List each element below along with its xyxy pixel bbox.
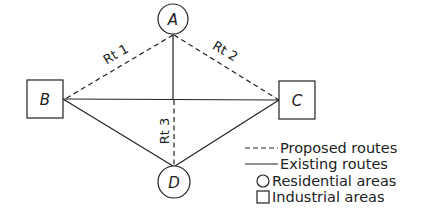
legend-existing-routes: Existing routes xyxy=(280,156,388,172)
node-c-label: C xyxy=(292,92,303,110)
node-b-label: B xyxy=(40,91,50,109)
route-label-rt3: Rt 3 xyxy=(157,118,172,145)
legend-industrial-areas: Industrial areas xyxy=(272,189,385,205)
node-d-label: D xyxy=(168,174,180,192)
route-network-diagram: A B C D Rt 1 Rt 2 Rt 3 Proposed routes E… xyxy=(0,0,437,216)
existing-route-c-d xyxy=(175,100,279,166)
legend: Proposed routes Existing routes Resident… xyxy=(245,140,397,205)
legend-residential-areas: Residential areas xyxy=(272,173,396,189)
legend-proposed-routes: Proposed routes xyxy=(280,140,397,156)
existing-route-b-c xyxy=(63,99,279,100)
route-label-rt2: Rt 2 xyxy=(210,38,240,65)
node-a-label: A xyxy=(167,11,178,29)
legend-square-icon xyxy=(257,191,269,203)
legend-circle-icon xyxy=(257,175,269,187)
